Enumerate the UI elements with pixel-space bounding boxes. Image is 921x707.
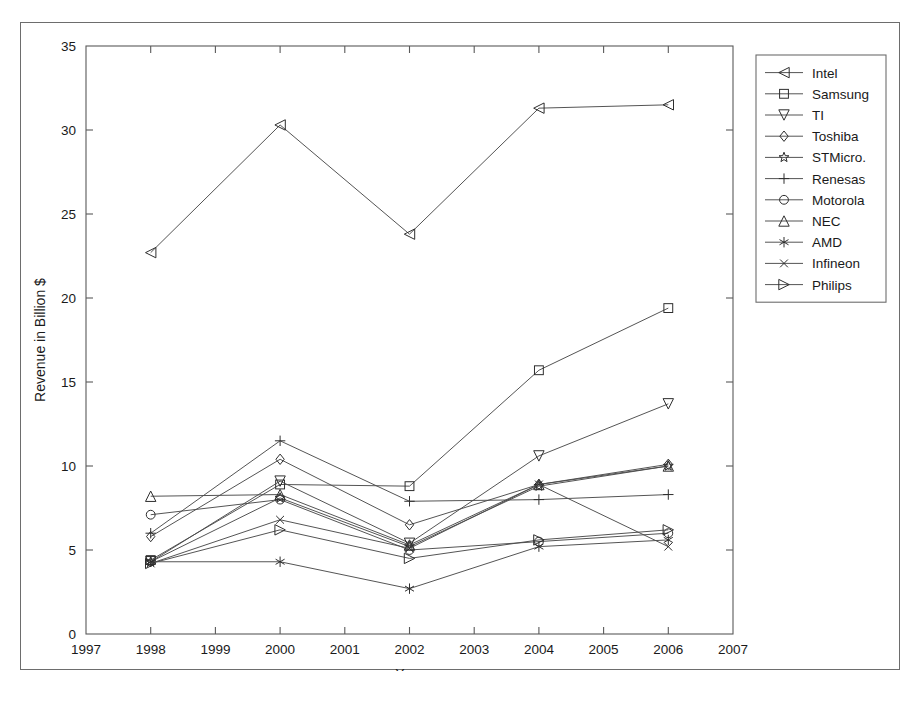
y-axis-title: Revenue in Billion $	[32, 278, 48, 402]
series-intel	[146, 100, 674, 258]
y-tick-label: 10	[61, 459, 76, 474]
x-tick-label: 2005	[589, 642, 619, 657]
series-line	[151, 308, 669, 560]
data-point-marker-x-cross	[276, 516, 284, 524]
series-line	[151, 105, 669, 253]
data-point-marker-plus	[275, 436, 285, 446]
x-tick-label: 2007	[718, 642, 748, 657]
y-tick-label: 0	[68, 627, 76, 642]
x-axis-ticks: 1997199819992000200120022003200420052006…	[71, 46, 748, 657]
y-tick-label: 15	[61, 375, 76, 390]
legend-label: Toshiba	[812, 129, 859, 144]
x-tick-label: 2006	[653, 642, 683, 657]
y-tick-label: 5	[68, 543, 76, 558]
y-tick-label: 30	[61, 123, 76, 138]
x-tick-label: 1998	[136, 642, 166, 657]
legend-label: AMD	[812, 235, 842, 250]
chart-canvas: 05101520253035 1997199819992000200120022…	[21, 23, 901, 671]
x-tick-label: 2000	[265, 642, 295, 657]
x-tick-label: 2002	[394, 642, 424, 657]
series-layer	[146, 100, 674, 594]
data-point-marker-plus	[534, 494, 544, 504]
data-point-marker-asterisk	[405, 583, 414, 593]
chart-legend: IntelSamsungTIToshibaSTMicro.RenesasMoto…	[756, 55, 886, 302]
legend-label: Infineon	[812, 256, 860, 271]
x-axis-title: Year	[395, 666, 424, 671]
data-point-marker-plus	[404, 496, 414, 506]
data-point-marker-plus	[663, 489, 673, 499]
figure-frame: 05101520253035 1997199819992000200120022…	[20, 22, 900, 670]
legend-label: Intel	[812, 66, 838, 81]
legend-label: STMicro.	[812, 150, 866, 165]
legend-label: NEC	[812, 214, 841, 229]
legend-label: Philips	[812, 278, 852, 293]
x-tick-label: 2001	[330, 642, 360, 657]
y-tick-label: 35	[61, 39, 76, 54]
x-tick-label: 2004	[524, 642, 555, 657]
legend-label: Renesas	[812, 172, 866, 187]
data-point-marker-square	[664, 304, 673, 313]
series-line	[151, 540, 669, 589]
x-tick-label: 2003	[459, 642, 489, 657]
legend-label: Motorola	[812, 193, 865, 208]
y-tick-label: 25	[61, 207, 76, 222]
series-renesas	[146, 436, 674, 539]
y-tick-label: 20	[61, 291, 76, 306]
legend-label: Samsung	[812, 87, 869, 102]
legend-label: TI	[812, 108, 824, 123]
x-tick-label: 1997	[71, 642, 101, 657]
x-tick-label: 1999	[200, 642, 230, 657]
y-axis-ticks: 05101520253035	[61, 39, 733, 642]
